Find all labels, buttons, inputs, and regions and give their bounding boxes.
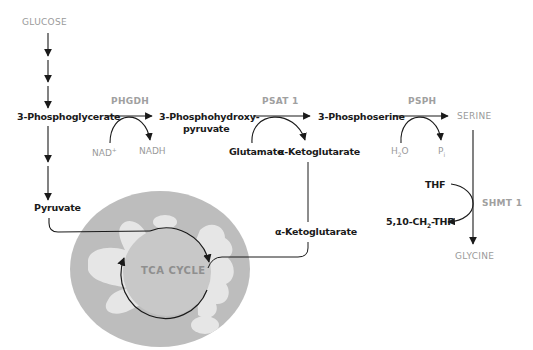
alpha-ketoglutarate-label: α-Ketoglutarate — [278, 147, 360, 157]
3-phosphoglycerate-label: 3-Phosphoglycerate — [17, 112, 120, 122]
shmt1-enzyme-label: SHMT 1 — [482, 199, 522, 208]
tca-cycle-label: TCA CYCLE — [141, 266, 206, 276]
water-label: H2O — [391, 147, 409, 158]
3-phosphoserine-label: 3-Phosphoserine — [318, 112, 405, 122]
pyruvate-label: Pyruvate — [34, 203, 81, 213]
methylene-thf-label: 5,10-CH2-THF — [386, 217, 454, 229]
alpha-ketoglutarate-mito-label: α-Ketoglutarate — [275, 227, 357, 237]
glycine-label: GLYCINE — [455, 252, 494, 261]
psph-enzyme-label: PSPH — [408, 97, 436, 106]
nad-plus-label: NAD+ — [92, 147, 117, 158]
psat1-enzyme-label: PSAT 1 — [262, 97, 299, 106]
glucose-label: GLUCOSE — [22, 18, 67, 27]
nadh-label: NADH — [139, 147, 166, 156]
psat1-cofactor-arrow — [252, 117, 305, 143]
serine-synthesis-pathway-diagram — [0, 0, 533, 350]
psph-cofactor-arrow — [401, 117, 441, 143]
thf-label: THF — [425, 180, 445, 190]
3-phosphohydroxypyruvate-label-line1: 3-Phosphohydroxy- — [159, 112, 259, 122]
glutamate-label: Glutamate — [229, 147, 283, 157]
serine-label: SERINE — [457, 112, 492, 121]
phosphate-label: Pi — [438, 147, 445, 158]
phgdh-enzyme-label: PHGDH — [111, 97, 149, 106]
3-phosphohydroxypyruvate-label-line2: pyruvate — [183, 124, 229, 134]
